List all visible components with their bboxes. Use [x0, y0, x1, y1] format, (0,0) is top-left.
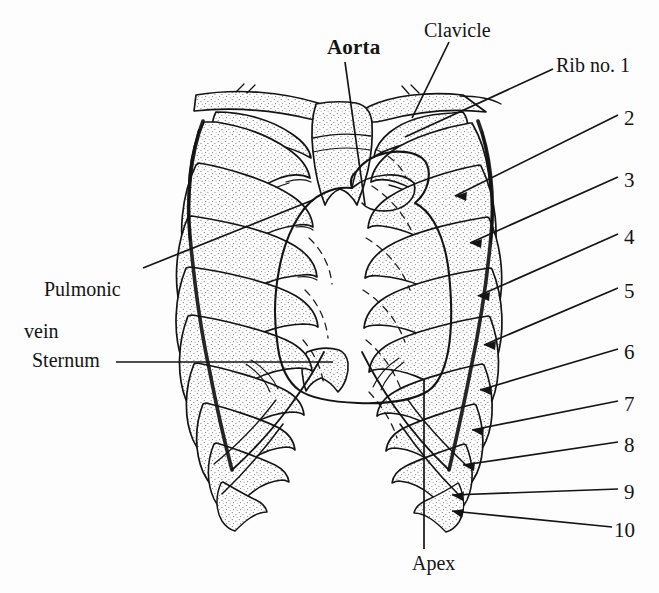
label-pulmonic-line2: vein: [24, 321, 121, 342]
rib-number-4: 4: [624, 225, 635, 250]
label-pulmonic-line1: Pulmonic: [44, 278, 121, 300]
label-sternum: Sternum: [32, 350, 100, 371]
sternum-bone: [302, 102, 372, 392]
leader-rib9: [452, 489, 618, 495]
rib-number-10: 10: [614, 518, 635, 543]
rib-number-3: 3: [624, 168, 635, 193]
rib-number-8: 8: [624, 433, 635, 458]
leader-rib6: [480, 349, 618, 390]
rib-number-9: 9: [624, 480, 635, 505]
label-rib-no-1: Rib no. 1: [556, 55, 630, 76]
ribs-left-side: [176, 112, 324, 531]
leader-rib8: [463, 442, 618, 465]
rib-number-2: 2: [624, 106, 635, 131]
leader-rib5: [484, 288, 618, 345]
rib-cage-group: [176, 84, 502, 532]
leader-rib10: [452, 511, 612, 527]
label-apex: Apex: [412, 553, 455, 574]
rib-number-5: 5: [624, 279, 635, 304]
label-clavicle: Clavicle: [424, 20, 491, 41]
rib-number-7: 7: [624, 392, 635, 417]
leader-rib7: [472, 401, 618, 430]
label-aorta: Aorta: [327, 36, 380, 58]
rib-number-6: 6: [624, 340, 635, 365]
figure-canvas: Aorta Clavicle Rib no. 1 Pulmonic vein S…: [0, 0, 659, 593]
